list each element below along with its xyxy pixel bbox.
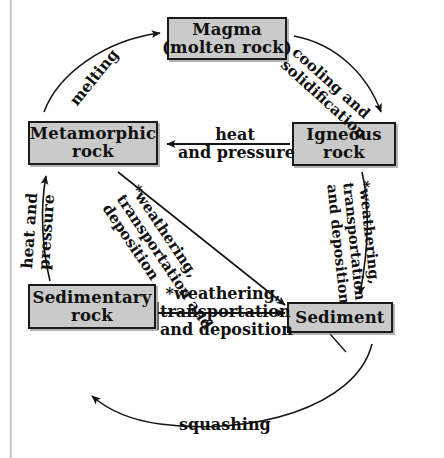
- label-weathering-bottom-line-2: transportation: [160, 303, 286, 321]
- label-heat-top-line-1: heat: [178, 126, 292, 144]
- node-sedimentary-line-2: rock: [71, 307, 113, 325]
- label-heat-and-pressure-left: heat and pressure: [18, 192, 58, 270]
- label-heat-and-pressure-top: heat and pressure: [178, 126, 292, 162]
- node-sediment[interactable]: Sediment: [287, 302, 393, 333]
- label-weathering-bottom: *weathering, transportation and depositi…: [160, 285, 286, 339]
- label-weathering-bottom-line-3: and deposition: [160, 321, 286, 339]
- label-weathering-bottom-line-1: *weathering,: [160, 285, 286, 303]
- node-metamorphic-line-2: rock: [72, 143, 114, 161]
- node-magma[interactable]: Magma (molten rock): [167, 17, 287, 60]
- node-magma-line-1: Magma: [192, 21, 262, 39]
- rock-cycle-diagram: Magma (molten rock) Metamorphic rock Ign…: [0, 0, 444, 458]
- node-igneous-line-2: rock: [323, 144, 365, 162]
- node-sedimentary-rock[interactable]: Sedimentary rock: [28, 284, 156, 329]
- label-heat-top-line-2: and pressure: [178, 144, 292, 162]
- node-sedimentary-line-1: Sedimentary: [33, 289, 152, 307]
- node-metamorphic-line-1: Metamorphic: [30, 125, 156, 143]
- node-magma-line-2: (molten rock): [162, 39, 292, 57]
- node-metamorphic-rock[interactable]: Metamorphic rock: [28, 121, 158, 165]
- label-squashing-line-1: squashing: [179, 416, 271, 434]
- node-sediment-line-1: Sediment: [295, 309, 384, 327]
- label-squashing: squashing: [179, 416, 271, 434]
- edge-sediment-stub: [330, 334, 346, 352]
